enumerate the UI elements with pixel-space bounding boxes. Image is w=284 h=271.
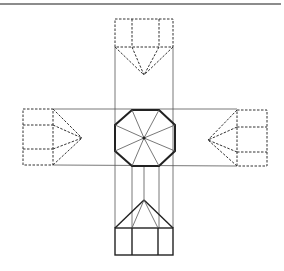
plan-view-octagon bbox=[115, 110, 175, 166]
projection-diagram bbox=[0, 0, 284, 271]
top-elevation-view bbox=[115, 19, 173, 75]
apex-point bbox=[143, 137, 146, 140]
bottom-elevation-view bbox=[115, 200, 173, 255]
left-elevation-view bbox=[23, 109, 82, 165]
right-elevation-view bbox=[208, 110, 267, 166]
